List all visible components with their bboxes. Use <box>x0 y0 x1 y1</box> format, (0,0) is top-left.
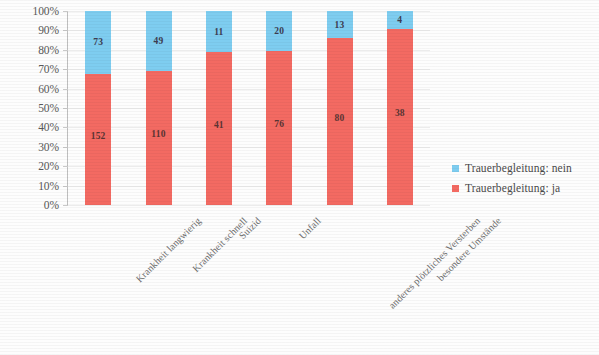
y-axis-tick-label: 100% <box>11 5 59 17</box>
y-axis-tick-label: 50% <box>11 102 59 114</box>
bar-segment-nein[interactable] <box>85 11 111 74</box>
legend-swatch-nein <box>452 165 459 172</box>
bar-segment-nein[interactable] <box>387 11 413 29</box>
chart-legend: Trauerbegleitung: nein Trauerbegleitung:… <box>452 158 572 198</box>
y-axis-tick-label: 80% <box>11 44 59 56</box>
y-axis-tick-label: 60% <box>11 83 59 95</box>
y-axis-tick-label: 70% <box>11 63 59 75</box>
legend-label-nein: Trauerbegleitung: nein <box>465 162 572 174</box>
bar-segment-nein[interactable] <box>146 11 172 71</box>
legend-item-ja[interactable]: Trauerbegleitung: ja <box>452 178 572 198</box>
plot-area: 7315249110114120761380438 <box>68 11 430 205</box>
bar-stack[interactable]: 2076 <box>266 11 292 205</box>
gridline <box>68 205 430 206</box>
legend-swatch-ja <box>452 185 459 192</box>
bar-stack[interactable]: 1380 <box>327 11 353 205</box>
bar-segment-ja[interactable] <box>387 29 413 205</box>
x-axis-label: Krankheit langwierig <box>134 215 203 284</box>
bar-stack[interactable]: 438 <box>387 11 413 205</box>
bar-stack[interactable]: 49110 <box>146 11 172 205</box>
y-axis-tick-label: 20% <box>11 160 59 172</box>
legend-label-ja: Trauerbegleitung: ja <box>465 182 560 194</box>
bar-segment-ja[interactable] <box>206 52 232 205</box>
bar-segment-nein[interactable] <box>206 11 232 52</box>
legend-item-nein[interactable]: Trauerbegleitung: nein <box>452 158 572 178</box>
y-axis-tick-label: 10% <box>11 180 59 192</box>
bar-segment-ja[interactable] <box>146 71 172 205</box>
bar-stack[interactable]: 73152 <box>85 11 111 205</box>
bar-segment-ja[interactable] <box>327 38 353 205</box>
chart-container: 100%90%80%70%60%50%40%30%20%10%0% 731524… <box>0 0 599 355</box>
bar-segment-ja[interactable] <box>266 51 292 205</box>
y-axis-tick-label: 0% <box>11 199 59 211</box>
x-axis-label: anderes plötzliches Versterben <box>386 215 482 311</box>
y-axis-tick-label: 30% <box>11 141 59 153</box>
y-axis-tick-label: 40% <box>11 121 59 133</box>
bar-segment-nein[interactable] <box>327 11 353 38</box>
bar-segment-nein[interactable] <box>266 11 292 51</box>
bar-segment-ja[interactable] <box>85 74 111 205</box>
x-axis-label: Unfall <box>297 215 323 241</box>
y-axis-tick <box>63 205 68 206</box>
bar-stack[interactable]: 1141 <box>206 11 232 205</box>
y-axis-tick-label: 90% <box>11 24 59 36</box>
